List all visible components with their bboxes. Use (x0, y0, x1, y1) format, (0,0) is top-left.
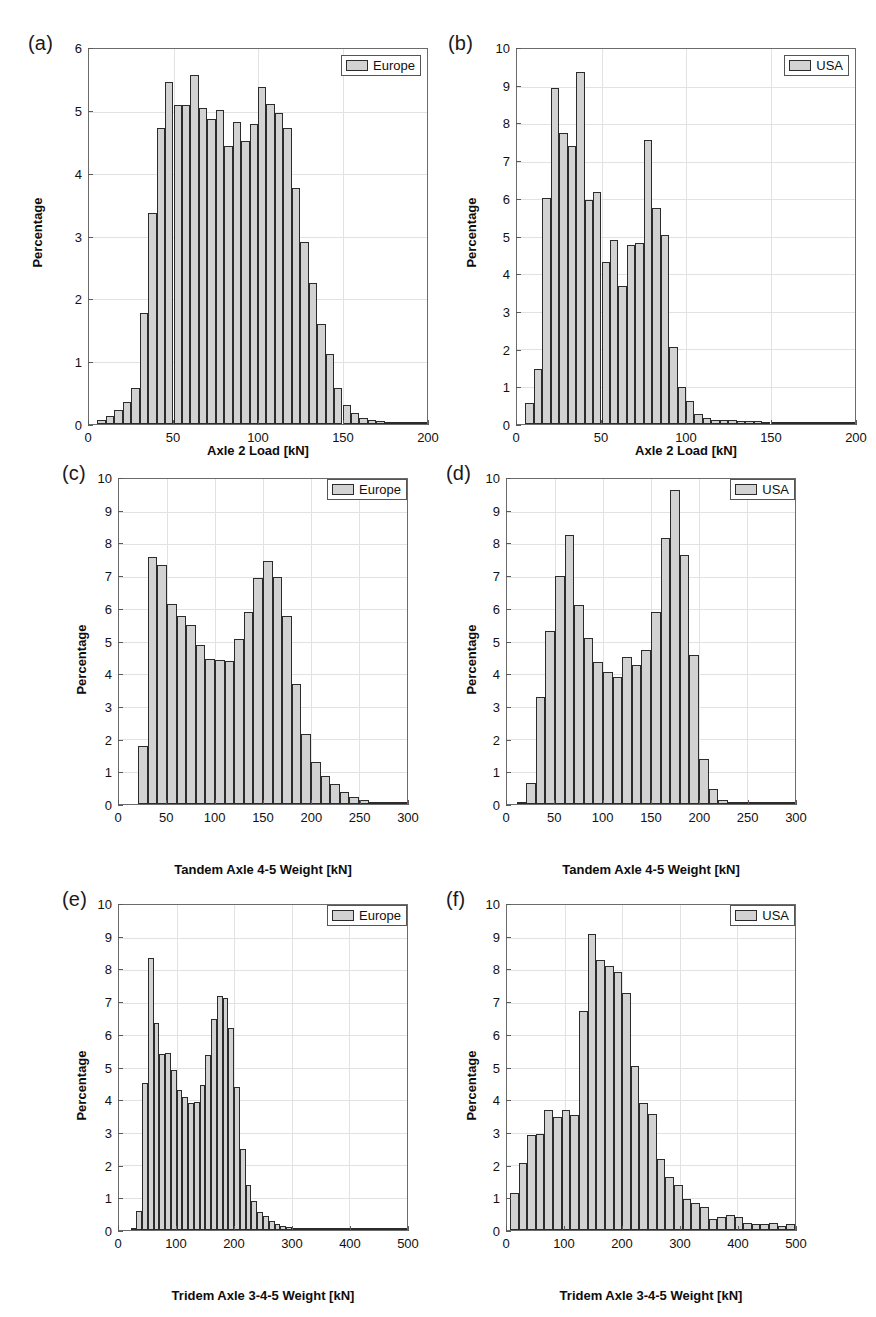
histogram-bar (369, 802, 379, 804)
y-tick-mark (88, 174, 93, 175)
y-tick-mark (506, 1133, 511, 1134)
histogram-bar (821, 422, 829, 424)
panel-b-bars (517, 49, 855, 424)
y-tick-mark (506, 772, 511, 773)
panel-f-bars (507, 905, 795, 1230)
y-tick-label: 5 (88, 1062, 112, 1075)
histogram-bar (526, 783, 536, 804)
x-tick-mark (738, 1226, 739, 1231)
legend-swatch-icon (332, 910, 354, 921)
y-tick-mark (118, 772, 123, 773)
histogram-bar (321, 776, 331, 804)
y-tick-label: 4 (88, 668, 112, 681)
panel-a: (a) Percentage Axle 2 Load [kN] Europe 0… (0, 0, 438, 440)
histogram-bar (683, 1199, 692, 1230)
histogram-bar (216, 110, 224, 424)
histogram-bar (340, 792, 350, 804)
histogram-bar (97, 420, 105, 424)
y-tick-mark (506, 1035, 511, 1036)
histogram-bar (402, 422, 410, 424)
y-tick-mark (506, 937, 511, 938)
x-tick-mark (173, 420, 174, 425)
legend-swatch-icon (735, 484, 757, 495)
histogram-bar (241, 141, 249, 424)
x-tick-mark (343, 420, 344, 425)
x-tick-label: 250 (723, 811, 773, 824)
x-tick-mark (292, 1226, 293, 1231)
y-tick-mark (506, 674, 511, 675)
histogram-bar (644, 140, 652, 424)
y-tick-label: 6 (476, 1029, 500, 1042)
x-tick-mark (428, 420, 429, 425)
histogram-bar (639, 1103, 648, 1230)
histogram-bar (847, 422, 855, 424)
x-tick-mark (680, 1226, 681, 1231)
histogram-bar (568, 146, 576, 424)
y-tick-label: 9 (88, 505, 112, 518)
x-tick-mark (699, 800, 700, 805)
histogram-bar (148, 557, 158, 804)
y-tick-label: 2 (486, 344, 510, 357)
panel-c: (c) Percentage Tandem Axle 4-5 Weight [k… (0, 440, 438, 860)
histogram-bar (691, 1203, 700, 1230)
y-tick-mark (506, 707, 511, 708)
histogram-bar (838, 422, 846, 424)
x-tick-mark (118, 800, 119, 805)
y-tick-mark (118, 642, 123, 643)
gridline-vertical (343, 49, 344, 424)
x-tick-label: 500 (771, 1237, 821, 1250)
y-tick-label: 1 (88, 1192, 112, 1205)
gridline-vertical (292, 905, 293, 1230)
histogram-bar (266, 104, 274, 424)
x-tick-mark (166, 800, 167, 805)
histogram-bar (368, 420, 376, 424)
histogram-bar (330, 784, 340, 804)
y-tick-label: 5 (88, 636, 112, 649)
histogram-bar (700, 1207, 709, 1230)
x-tick-mark (176, 1226, 177, 1231)
y-tick-label: 9 (486, 80, 510, 93)
panel-e: (e) Percentage Tridem Axle 3-4-5 Weight … (0, 860, 438, 1317)
histogram-bar (576, 72, 584, 424)
y-tick-label: 3 (58, 231, 82, 244)
histogram-bar (138, 746, 148, 804)
histogram-bar (167, 604, 177, 804)
y-tick-label: 4 (476, 668, 500, 681)
histogram-bar (602, 262, 610, 424)
y-tick-label: 4 (88, 1094, 112, 1107)
histogram-bar (534, 369, 542, 424)
x-tick-mark (603, 800, 604, 805)
histogram-bar (796, 422, 804, 424)
x-tick-mark (686, 420, 687, 425)
x-tick-mark (311, 800, 312, 805)
x-tick-label: 200 (286, 811, 336, 824)
y-tick-label: 7 (88, 996, 112, 1009)
y-tick-mark (506, 740, 511, 741)
panel-c-plot: Europe (118, 478, 408, 805)
gridline-horizontal (507, 970, 795, 971)
histogram-bar (275, 113, 283, 424)
x-tick-label: 150 (238, 811, 288, 824)
x-tick-mark (622, 1226, 623, 1231)
x-tick-label: 100 (539, 1237, 589, 1250)
histogram-bar (131, 388, 139, 424)
y-tick-mark (516, 312, 521, 313)
histogram-bar (258, 87, 266, 425)
x-tick-mark (601, 420, 602, 425)
x-tick-label: 0 (93, 1237, 143, 1250)
y-tick-mark (516, 123, 521, 124)
histogram-bar (737, 802, 747, 804)
x-tick-label: 300 (383, 811, 433, 824)
panel-d-plot: USA (506, 478, 796, 805)
x-tick-label: 400 (325, 1237, 375, 1250)
panel-b-ylabel: Percentage (464, 178, 479, 288)
histogram-bar (309, 283, 317, 424)
histogram-bar (596, 960, 605, 1230)
gridline-vertical (680, 905, 681, 1230)
panel-d-legend: USA (730, 479, 795, 500)
y-tick-mark (506, 576, 511, 577)
histogram-bar (282, 616, 292, 805)
x-tick-mark (408, 800, 409, 805)
histogram-bar (233, 122, 241, 424)
y-tick-mark (516, 199, 521, 200)
